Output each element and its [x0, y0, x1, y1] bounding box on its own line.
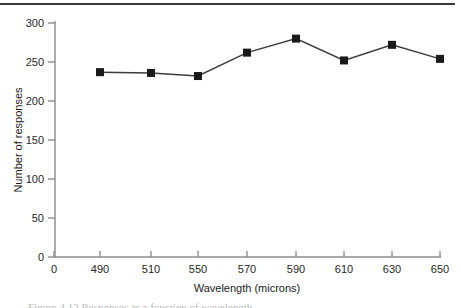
y-axis-ticks	[48, 23, 55, 257]
data-point-marker	[194, 72, 202, 80]
figure-caption-partial: Figure 4.12 Responses as a function of w…	[28, 301, 448, 308]
y-tick-label-300: 300	[26, 17, 44, 29]
y-tick-label-0: 0	[38, 251, 44, 263]
data-point-marker	[340, 56, 348, 64]
x-tick-label-630: 630	[383, 263, 401, 275]
data-point-marker	[96, 68, 104, 76]
data-point-marker	[388, 41, 396, 49]
x-tick-label-590: 590	[287, 263, 305, 275]
data-point-marker	[292, 35, 300, 43]
x-axis-title: Wavelength (microns)	[194, 282, 301, 294]
x-tick-label-610: 610	[335, 263, 353, 275]
y-tick-label-100: 100	[26, 173, 44, 185]
y-tick-label-250: 250	[26, 56, 44, 68]
x-tick-label-650: 650	[431, 263, 449, 275]
x-tick-label-550: 550	[189, 263, 207, 275]
line-chart: 0 50 100 150 200 250 300 0 490 510 550 5…	[0, 0, 461, 308]
data-point-marker	[147, 69, 155, 77]
data-point-marker	[436, 55, 444, 63]
x-tick-label-490: 490	[91, 263, 109, 275]
y-tick-label-150: 150	[26, 134, 44, 146]
x-tick-label-570: 570	[238, 263, 256, 275]
data-series-markers	[96, 35, 444, 80]
y-tick-label-200: 200	[26, 95, 44, 107]
x-tick-label-510: 510	[142, 263, 160, 275]
y-tick-label-50: 50	[32, 212, 44, 224]
x-tick-label-0: 0	[51, 263, 57, 275]
y-axis-title: Number of responses	[12, 87, 24, 193]
data-point-marker	[243, 49, 251, 57]
x-axis-ticks	[54, 251, 440, 257]
figure-container: 0 50 100 150 200 250 300 0 490 510 550 5…	[0, 0, 461, 308]
